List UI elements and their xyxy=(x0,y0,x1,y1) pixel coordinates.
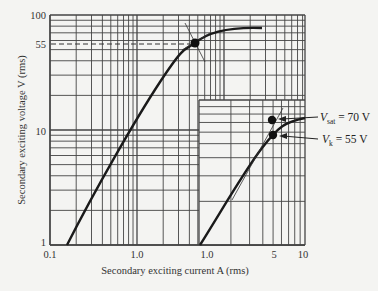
knee-point-marker xyxy=(191,39,200,48)
x-tick-0.1: 0.1 xyxy=(43,249,56,260)
inset-x-tick-10: 10 xyxy=(298,249,309,260)
y-tick-55: 55 xyxy=(36,39,47,50)
vsat-point-marker xyxy=(268,116,276,124)
vsat-label: Vsat = 70 V xyxy=(320,111,371,126)
excitation-chart: Vsat = 70 V Vk = 55 V 100 55 10 1 0.1 1.… xyxy=(0,0,378,291)
y-tick-10: 10 xyxy=(36,126,47,137)
x-axis-label: Secondary exciting current A (rms) xyxy=(101,265,249,277)
inset-x-tick-5: 5 xyxy=(271,249,276,260)
y-tick-100: 100 xyxy=(30,10,46,21)
x-tick-1.0: 1.0 xyxy=(130,249,143,260)
y-tick-1: 1 xyxy=(41,237,46,248)
inset-x-tick-1.0: 1.0 xyxy=(200,249,213,260)
y-axis-label: Secondary exciting voltage V (rms) xyxy=(16,55,28,205)
vk-label: Vk = 55 V xyxy=(322,133,368,148)
vk-point-marker xyxy=(269,131,277,139)
